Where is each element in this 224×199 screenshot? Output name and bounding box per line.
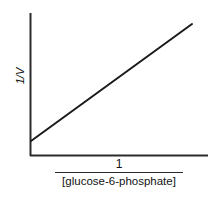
y-axis-label: 1/V <box>14 48 26 104</box>
lineweaver-burk-plot: 1/V 1 [glucose-6-phosphate] <box>0 0 224 199</box>
x-axis-label-denominator: [glucose-6-phosphate] <box>55 173 183 189</box>
x-axis-label-numerator: 1 <box>55 158 183 172</box>
x-axis-label: 1 [glucose-6-phosphate] <box>55 158 183 189</box>
data-line <box>31 24 192 141</box>
